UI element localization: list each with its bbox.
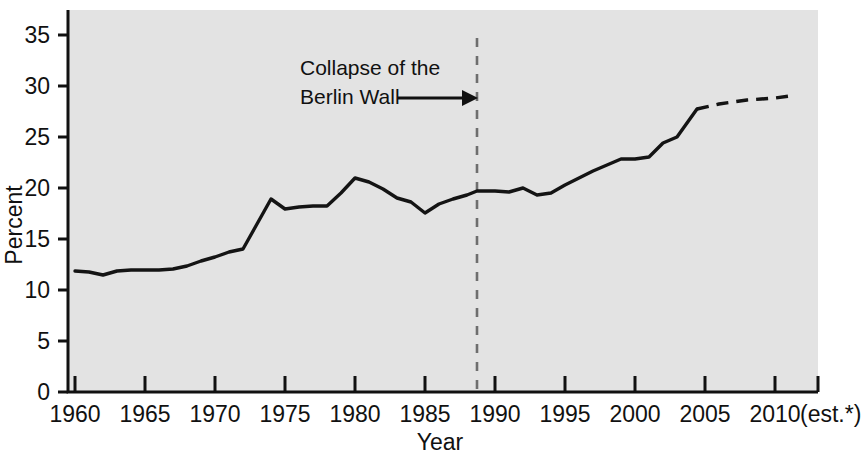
x-axis-tick-labels: 1960 1965 1970 1975 1980 1985 1990 1995 …	[49, 401, 861, 427]
y-tick-label-5: 5	[37, 328, 50, 354]
y-tick-label-10: 10	[24, 277, 50, 303]
chart-figure: 0 5 10 15 20 25 30 35 1960 1965	[0, 0, 863, 454]
x-axis-estimate-note: (est.*)	[800, 401, 861, 427]
x-tick-label-2000: 2000	[609, 401, 660, 427]
x-tick-label-1995: 1995	[539, 401, 590, 427]
x-tick-label-1980: 1980	[329, 401, 380, 427]
y-tick-label-20: 20	[24, 175, 50, 201]
y-tick-label-35: 35	[24, 22, 50, 48]
y-tick-label-15: 15	[24, 226, 50, 252]
line-chart: 0 5 10 15 20 25 30 35 1960 1965	[0, 0, 863, 454]
x-tick-label-1985: 1985	[399, 401, 450, 427]
y-tick-label-25: 25	[24, 124, 50, 150]
berlin-wall-annotation-line2: Berlin Wall	[300, 85, 400, 108]
x-tick-label-2005: 2005	[679, 401, 730, 427]
x-tick-label-1965: 1965	[119, 401, 170, 427]
y-tick-label-30: 30	[24, 73, 50, 99]
x-axis-title: Year	[417, 429, 464, 454]
y-tick-label-0: 0	[37, 379, 50, 405]
x-tick-label-1960: 1960	[49, 401, 100, 427]
berlin-wall-annotation-line1: Collapse of the	[300, 56, 440, 79]
x-tick-label-2010: 2010	[749, 401, 800, 427]
x-tick-label-1990: 1990	[469, 401, 520, 427]
y-axis-title: Percent	[1, 185, 27, 265]
x-tick-label-1975: 1975	[259, 401, 310, 427]
y-axis-tick-labels: 0 5 10 15 20 25 30 35	[24, 22, 50, 405]
x-tick-label-1970: 1970	[189, 401, 240, 427]
